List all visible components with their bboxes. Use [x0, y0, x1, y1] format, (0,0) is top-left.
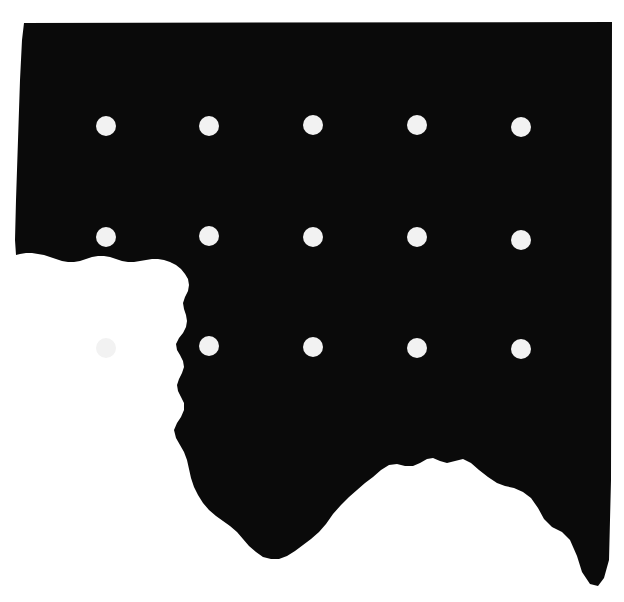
dot-r1-c3[interactable]	[303, 115, 323, 135]
dot-r1-c1[interactable]	[96, 116, 116, 136]
dot-r2-c1[interactable]	[96, 227, 116, 247]
dot-r1-c2[interactable]	[199, 116, 219, 136]
map-silhouette-svg	[0, 0, 624, 602]
dot-r1-c4[interactable]	[407, 115, 427, 135]
dot-r2-c5[interactable]	[511, 230, 531, 250]
dot-r3-c2[interactable]	[199, 336, 219, 356]
dot-r3-c5[interactable]	[511, 339, 531, 359]
dot-r2-c2[interactable]	[199, 226, 219, 246]
dot-r2-c3[interactable]	[303, 227, 323, 247]
dot-r3-c4[interactable]	[407, 338, 427, 358]
dot-r3-c1[interactable]	[96, 338, 116, 358]
dot-r3-c3[interactable]	[303, 337, 323, 357]
dot-r1-c5[interactable]	[511, 117, 531, 137]
dot-r2-c4[interactable]	[407, 227, 427, 247]
map-canvas: Solid black silhouette of a geographic r…	[0, 0, 624, 602]
